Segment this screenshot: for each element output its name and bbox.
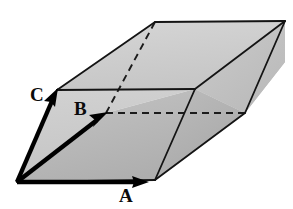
parallelepiped-figure: A B C <box>0 0 293 209</box>
edge-ac-to-c <box>57 89 195 90</box>
faces-group <box>17 21 285 182</box>
edge-bc-to-abc <box>155 21 285 22</box>
vector-a-label: A <box>119 186 133 205</box>
figure-canvas <box>0 0 293 209</box>
vector-c-label: C <box>30 85 44 104</box>
vector-b-label: B <box>74 99 87 118</box>
